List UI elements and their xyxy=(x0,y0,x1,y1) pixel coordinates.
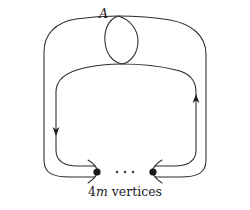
caption-variable: m xyxy=(96,184,108,199)
ellipsis-dot xyxy=(132,171,135,174)
right-vertex xyxy=(149,168,156,175)
left-vertex xyxy=(93,168,100,175)
graph-diagram xyxy=(0,0,250,210)
caption-word: vertices xyxy=(112,184,162,199)
outer-cycle-path xyxy=(44,16,206,177)
self-loop-label-A: A xyxy=(99,8,108,21)
caption-number: 4 xyxy=(88,184,96,199)
figure-container: A 4m vertices xyxy=(0,0,250,210)
figure-caption: 4m vertices xyxy=(0,186,250,199)
ellipsis-dot xyxy=(116,171,119,174)
ellipsis-dot xyxy=(124,171,127,174)
inner-cycle-path xyxy=(56,64,196,166)
self-loop-A-path xyxy=(105,16,138,64)
